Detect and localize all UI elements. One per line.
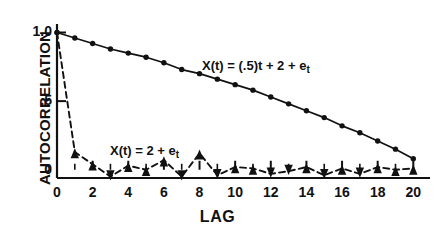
- x-tick-label: 10: [219, 184, 251, 200]
- y-tick-label: 1.0: [17, 23, 52, 39]
- x-tick-label: 14: [290, 184, 322, 200]
- series-markers-trend: [54, 30, 416, 162]
- x-tick-label: 20: [397, 184, 429, 200]
- y-tick-label: 0: [17, 161, 52, 177]
- x-axis-title: LAG: [0, 208, 435, 226]
- x-tick-label: 16: [326, 184, 358, 200]
- x-tick-label: 4: [112, 184, 144, 200]
- series-markers-white-noise: [54, 30, 417, 181]
- lower-series-label-subscript: t: [176, 149, 179, 160]
- autocorrelation-chart: AUTOCORRELATION LAG 02468101214161820 1.…: [0, 0, 435, 241]
- upper-series-label-subscript: t: [306, 64, 309, 75]
- x-tick-label: 2: [77, 184, 109, 200]
- x-tick-label: 12: [255, 184, 287, 200]
- upper-series-label-text: X(t) = (.5)t + 2 + e: [202, 58, 306, 73]
- lower-series-label: X(t) = 2 + et: [110, 143, 179, 158]
- y-tick-label: .5: [17, 92, 52, 108]
- x-tick-label: 0: [41, 184, 73, 200]
- chart-plot-area: [0, 0, 435, 241]
- x-tick-label: 18: [362, 184, 394, 200]
- lower-series-label-text: X(t) = 2 + e: [110, 143, 176, 158]
- upper-series-label: X(t) = (.5)t + 2 + et: [202, 58, 310, 73]
- x-tick-label: 8: [184, 184, 216, 200]
- x-tick-label: 6: [148, 184, 180, 200]
